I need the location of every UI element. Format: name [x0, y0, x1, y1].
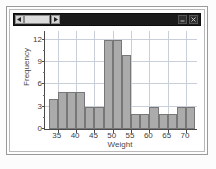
y-tick-minor: [43, 95, 45, 96]
y-tick-mark: [42, 61, 45, 62]
chart-canvas: Frequency 036912 Weight 3540455055606570: [13, 27, 201, 148]
minimize-icon[interactable]: [178, 15, 187, 24]
y-tick-mark: [42, 106, 45, 107]
histogram-bar: [186, 107, 195, 129]
histogram-bar: [140, 114, 149, 129]
histogram-bar: [159, 114, 168, 129]
x-axis-label: Weight: [44, 140, 196, 149]
y-tick-minor: [43, 117, 45, 118]
histogram-bar: [94, 107, 103, 129]
x-tick-label: 65: [157, 131, 177, 140]
y-tick-minor: [43, 72, 45, 73]
x-tick-label: 60: [138, 131, 158, 140]
y-tick-minor: [43, 50, 45, 51]
histogram-bar: [49, 99, 58, 129]
histogram-bar: [122, 55, 131, 129]
x-tick-label: 40: [65, 131, 85, 140]
y-tick-label: 6: [25, 80, 42, 88]
histogram-bar: [58, 92, 67, 129]
histogram-bar: [168, 114, 177, 129]
plot-axes-area: [44, 31, 197, 130]
x-tick-label: 50: [102, 131, 122, 140]
scan-background: Frequency 036912 Weight 3540455055606570: [0, 0, 216, 169]
y-axis-tick-labels: 036912: [25, 27, 42, 132]
x-tick-label: 35: [47, 131, 67, 140]
histogram-bar: [177, 107, 186, 129]
x-tick-label: 55: [120, 131, 140, 140]
histogram-bar: [104, 40, 113, 129]
histogram-bar: [67, 92, 76, 129]
x-tick-label: 70: [175, 131, 195, 140]
y-tick-mark: [42, 39, 45, 40]
y-tick-label: 12: [25, 36, 42, 44]
triangle-left-icon[interactable]: [15, 15, 24, 24]
x-tick-label: 45: [83, 131, 103, 140]
y-tick-mark: [42, 128, 45, 129]
y-tick-mark: [42, 83, 45, 84]
histogram-bar: [149, 107, 158, 129]
histogram-bars: [45, 31, 197, 129]
window-titlebar: [13, 13, 201, 26]
scrollbar-thumb[interactable]: [24, 15, 50, 24]
histogram-bar: [131, 114, 140, 129]
y-tick-label: 9: [25, 58, 42, 66]
y-tick-label: 3: [25, 103, 42, 111]
y-tick-label: 0: [25, 125, 42, 133]
close-icon[interactable]: [189, 15, 198, 24]
triangle-right-icon[interactable]: [51, 15, 60, 24]
plot-window: Frequency 036912 Weight 3540455055606570: [10, 10, 204, 151]
histogram-bar: [76, 92, 85, 129]
histogram-bar: [85, 107, 94, 129]
histogram-bar: [113, 40, 122, 129]
